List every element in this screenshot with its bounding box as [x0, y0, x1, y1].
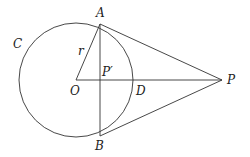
tangent-ap — [100, 24, 222, 80]
label-a: A — [95, 6, 105, 20]
label-r: r — [78, 44, 85, 58]
label-p-prime: P′ — [101, 65, 113, 79]
label-c: C — [13, 37, 22, 51]
label-o: O — [70, 84, 80, 98]
label-p: P — [226, 73, 236, 87]
label-b: B — [94, 139, 104, 153]
tangent-diagram: A B C O P P′ D r — [0, 0, 250, 157]
tangent-bp — [100, 80, 222, 136]
label-d: D — [135, 84, 146, 98]
